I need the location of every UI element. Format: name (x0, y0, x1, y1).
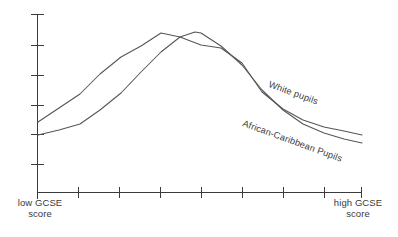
chart-container: low GCSE score high GCSE score White pup… (0, 0, 398, 237)
x-axis-high-label: high GCSE score (323, 197, 393, 219)
x-axis-low-label: low GCSE score (5, 197, 75, 219)
